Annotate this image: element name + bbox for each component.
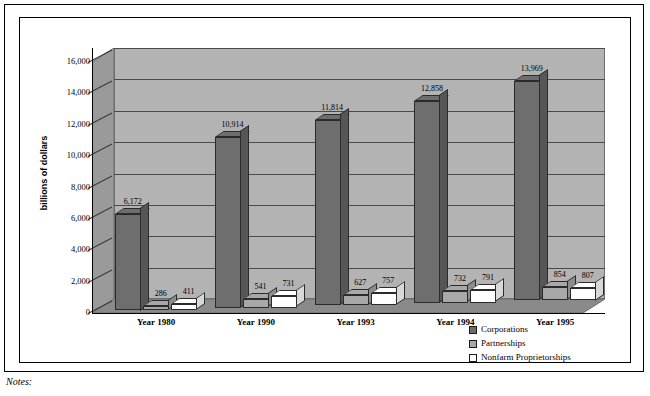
bar-nonfarm-2 [371, 287, 397, 305]
bar-corporations-3 [414, 95, 440, 303]
legend-item-nonfarm: Nonfarm Proprietorships [469, 351, 571, 364]
bar-face [542, 287, 568, 300]
bar-corporations-2 [315, 114, 341, 305]
x-category-label: Year 1990 [211, 317, 301, 327]
bar-face [470, 290, 496, 302]
bar-nonfarm-3 [470, 284, 496, 302]
bar-corporations-0 [115, 208, 141, 311]
bar-value-label: 13,969 [512, 64, 552, 73]
bar-side [340, 108, 349, 305]
bar-face [414, 101, 440, 303]
legend-swatch-icon [469, 354, 477, 362]
bar-nonfarm-4 [570, 282, 596, 301]
bar-value-label: 757 [368, 276, 408, 285]
bar-partnerships-0 [143, 300, 169, 310]
bar-value-label: 10,914 [212, 120, 252, 129]
bar-side [439, 89, 448, 303]
bar-face [442, 291, 468, 302]
y-tick-label: 2,000 [24, 276, 90, 286]
bar-face [271, 296, 297, 307]
bar-value-label: 791 [468, 273, 508, 282]
gridline [114, 48, 605, 49]
bar-side [539, 69, 548, 300]
y-tick-label: 4,000 [24, 244, 90, 254]
bar-corporations-1 [215, 131, 241, 308]
y-axis-line [92, 48, 93, 313]
y-axis-tick-labels: 02,0004,0006,0008,00010,00012,00014,0001… [20, 18, 90, 364]
bar-partnerships-1 [243, 293, 269, 307]
bar-value-label: 411 [169, 287, 209, 296]
bar-face [171, 304, 197, 310]
legend-label: Corporations [481, 325, 528, 334]
bar-value-label: 12,858 [412, 84, 452, 93]
page-border: 02,0004,0006,0008,00010,00012,00014,0001… [4, 4, 644, 372]
bar-face [215, 137, 241, 308]
x-axis-line [92, 313, 605, 314]
legend-label: Nonfarm Proprietorships [481, 353, 571, 362]
legend-label: Partnerships [481, 339, 526, 348]
y-tick-label: 6,000 [24, 213, 90, 223]
legend-swatch-icon [469, 340, 477, 348]
y-tick-label: 0 [24, 307, 90, 317]
legend-swatch-icon [469, 326, 477, 334]
bar-face [143, 306, 169, 310]
bar-face [570, 288, 596, 301]
notes-label: Notes: [6, 376, 32, 387]
bar-side [240, 125, 249, 308]
chart-legend: CorporationsPartnershipsNonfarm Propriet… [469, 323, 571, 365]
bar-face [514, 81, 540, 300]
bar-face [243, 299, 269, 307]
legend-item-partnerships: Partnerships [469, 337, 571, 350]
y-tick-label: 10,000 [24, 150, 90, 160]
bar-face [315, 120, 341, 305]
bar-value-label: 807 [568, 271, 608, 280]
bar-value-label: 731 [268, 279, 308, 288]
y-axis-title: billions of dollars [39, 113, 49, 233]
x-category-label: Year 1993 [311, 317, 401, 327]
bar-corporations-4 [514, 75, 540, 300]
bar-face [343, 295, 369, 305]
bar-nonfarm-0 [171, 298, 197, 310]
bar-partnerships-4 [542, 281, 568, 300]
bar-face [371, 293, 397, 305]
bar-nonfarm-1 [271, 290, 297, 307]
y-tick-label: 14,000 [24, 87, 90, 97]
bar-value-label: 11,814 [312, 103, 352, 112]
bar-partnerships-2 [343, 289, 369, 305]
bar-value-label: 6,172 [113, 197, 153, 206]
x-category-label: Year 1980 [111, 317, 201, 327]
bar-partnerships-3 [442, 285, 468, 302]
y-tick-label: 16,000 [24, 56, 90, 66]
bar-chart: 02,0004,0006,0008,00010,00012,00014,0001… [20, 18, 632, 364]
legend-item-corporations: Corporations [469, 323, 571, 336]
y-tick-label: 12,000 [24, 119, 90, 129]
chart-border: 02,0004,0006,0008,00010,00012,00014,0001… [19, 17, 631, 363]
bar-face [115, 214, 141, 311]
y-tick-label: 8,000 [24, 182, 90, 192]
